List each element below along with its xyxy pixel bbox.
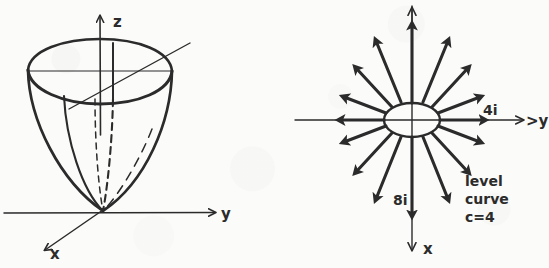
paraboloid-svg: z y x	[0, 0, 275, 268]
level-curve-caption: level curve c=4	[465, 173, 509, 225]
y-intercept-label: 4i	[483, 102, 498, 118]
left-y-axis	[4, 213, 215, 214]
gradient-arrow	[438, 126, 480, 142]
left-y-axis-label: y	[221, 205, 231, 223]
x-intercept-label: 8i	[393, 192, 408, 208]
right-panel-gradient-field: 4i 8i >y x level curve c=4	[275, 0, 549, 268]
gradient-arrow	[344, 97, 386, 113]
left-z-axis-label: z	[113, 13, 122, 31]
gradient-arrow	[432, 68, 468, 107]
caption-line-1: level	[465, 173, 503, 189]
gradient-arrow	[438, 97, 480, 113]
gradient-arrow	[356, 133, 392, 172]
left-panel-paraboloid: z y x	[0, 0, 275, 268]
figure-page: z y x	[0, 0, 549, 268]
caption-line-3: c=4	[465, 209, 495, 225]
caption-line-2: curve	[465, 191, 509, 207]
right-y-axis-label: >y	[526, 112, 549, 130]
hidden-edge-2	[103, 99, 113, 211]
gradient-arrow	[432, 133, 468, 172]
gradient-field-svg: 4i 8i >y x level curve c=4	[275, 0, 549, 268]
left-z-axis	[100, 16, 101, 135]
gradient-arrow	[344, 126, 386, 142]
left-x-axis-label: x	[50, 245, 60, 263]
gradient-arrow	[356, 68, 392, 107]
paraboloid-left-profile	[28, 70, 103, 211]
right-x-axis-label: x	[423, 240, 433, 258]
hidden-edge-1	[95, 99, 103, 211]
